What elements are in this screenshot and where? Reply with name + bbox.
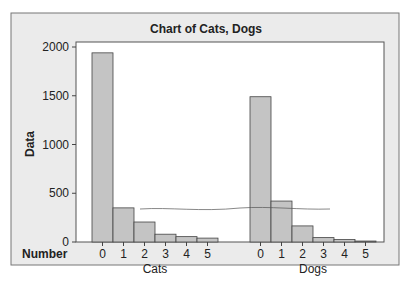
x-tick-label: 5 — [362, 247, 369, 261]
x-tick-label: 5 — [204, 247, 211, 261]
x-tick-label: 4 — [341, 247, 348, 261]
x-tick-label: 3 — [320, 247, 327, 261]
bar — [155, 234, 176, 242]
bar — [334, 240, 355, 242]
x-tick-label: 1 — [120, 247, 127, 261]
bar — [313, 238, 334, 242]
group-label: Cats — [143, 262, 168, 276]
bar — [134, 222, 155, 242]
y-tick-label: 500 — [49, 186, 69, 200]
x-row-label: Number — [22, 247, 68, 261]
x-tick-label: 2 — [299, 247, 306, 261]
chart-title: Chart of Cats, Dogs — [150, 22, 262, 36]
bar — [92, 53, 113, 242]
x-tick-label: 0 — [99, 247, 106, 261]
group-label: Dogs — [299, 262, 327, 276]
bar — [197, 238, 218, 242]
bar — [250, 97, 271, 242]
y-tick-label: 1500 — [42, 89, 69, 103]
bar — [113, 208, 134, 242]
x-tick-label: 1 — [278, 247, 285, 261]
x-tick-label: 0 — [257, 247, 264, 261]
x-tick-label: 2 — [141, 247, 148, 261]
bar — [292, 226, 313, 242]
bar — [176, 237, 197, 242]
bar — [355, 241, 376, 242]
y-axis-label: Data — [23, 131, 37, 157]
y-tick-label: 2000 — [42, 40, 69, 54]
y-tick-label: 1000 — [42, 138, 69, 152]
bar — [271, 201, 292, 242]
x-tick-label: 3 — [162, 247, 169, 261]
x-tick-label: 4 — [183, 247, 190, 261]
chart: Chart of Cats, Dogs 0500100015002000 Dat… — [0, 0, 420, 296]
